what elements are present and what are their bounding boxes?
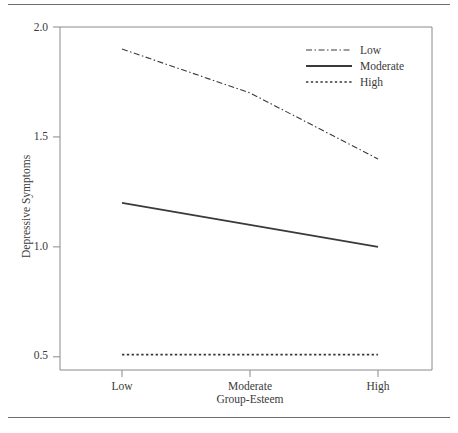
x-tick-label-low: Low xyxy=(77,380,167,392)
legend-label-high: High xyxy=(360,76,383,89)
x-axis-title: Group-Esteem xyxy=(150,393,350,405)
x-tick-label-moderate: Moderate xyxy=(205,380,295,392)
y-axis-title: Depressive Symptoms xyxy=(20,155,32,258)
legend-label-low: Low xyxy=(360,44,381,57)
y-axis-ticks xyxy=(53,27,60,357)
y-tick-label-0-5: 0.5 xyxy=(14,349,48,361)
y-tick-label-2-0: 2.0 xyxy=(14,21,48,33)
x-axis-ticks xyxy=(122,370,378,377)
y-tick-label-1-5: 1.5 xyxy=(14,130,48,142)
legend-swatches xyxy=(306,50,352,82)
series-line-moderate xyxy=(122,203,378,247)
figure: 2.0 1.5 1.0 0.5 Low Moderate High Depres… xyxy=(0,0,458,433)
legend-label-moderate: Moderate xyxy=(360,60,404,73)
x-tick-label-high: High xyxy=(333,380,423,392)
